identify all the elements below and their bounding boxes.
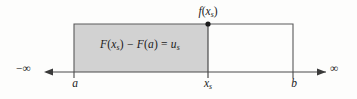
fxs-label: f(xs) xyxy=(178,6,238,19)
negative-infinity-label: −∞ xyxy=(16,63,31,75)
formula-u-subscript: s xyxy=(177,43,180,52)
fxs-point-marker xyxy=(205,21,210,26)
figure-container: f(xs) F(xs) − F(a) = us −∞ ∞ a xs b xyxy=(0,0,357,99)
positive-infinity-label: ∞ xyxy=(330,63,338,75)
formula-equals: = xyxy=(158,38,171,50)
tick-label-a: a xyxy=(66,78,84,90)
tick-xs-subscript: s xyxy=(209,82,212,91)
axis-right-arrowhead xyxy=(317,68,326,75)
tick-label-b: b xyxy=(285,78,303,90)
area-formula-label: F(xs) − F(a) = us xyxy=(72,39,208,52)
axis-left-arrowhead xyxy=(44,68,53,75)
fxs-close-paren: ) xyxy=(214,5,218,17)
formula-F2: F xyxy=(137,38,144,50)
formula-minus: − xyxy=(124,38,137,50)
tick-label-xs: xs xyxy=(193,78,223,91)
